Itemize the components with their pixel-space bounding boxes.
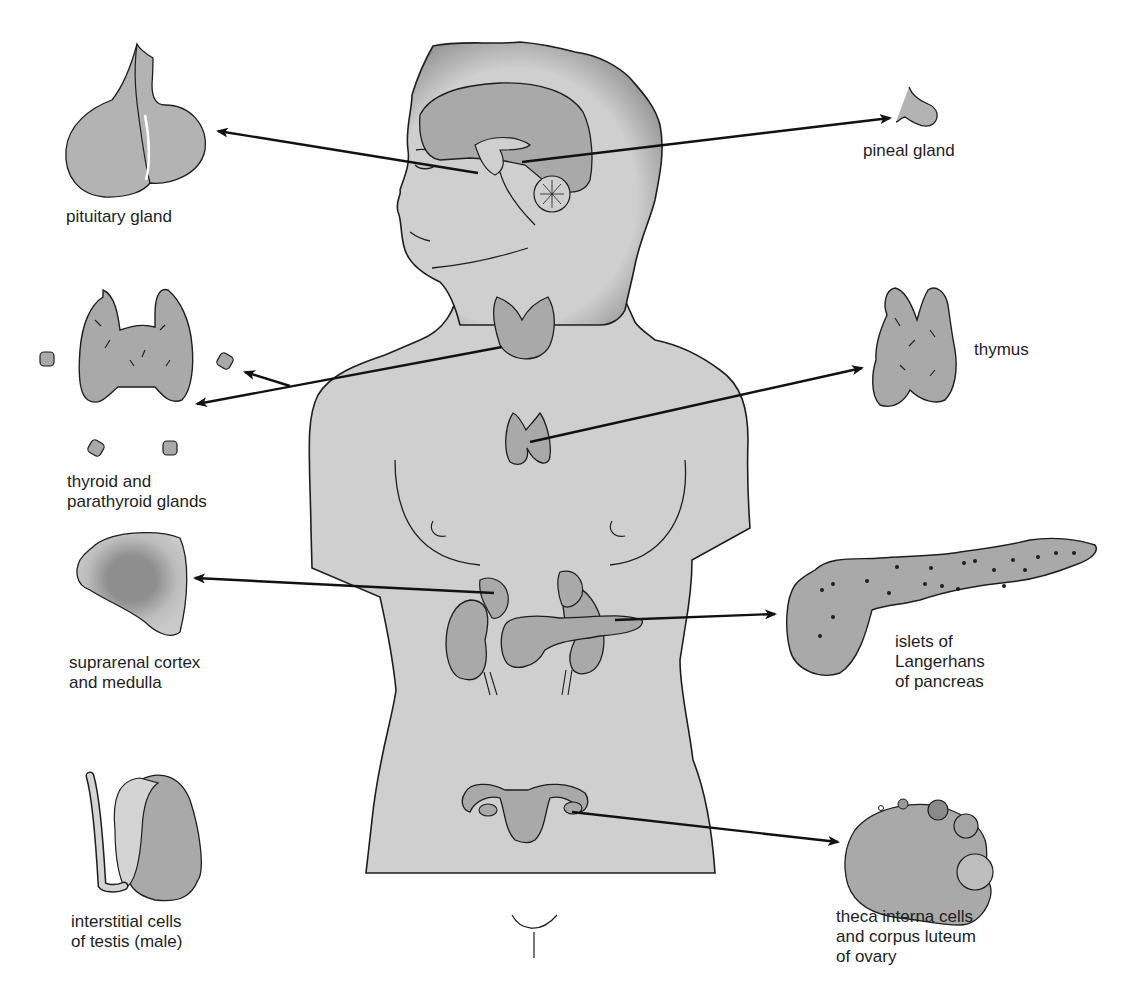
label-pineal-gland: pineal gland	[863, 141, 955, 161]
thyroid-gland-illustration	[40, 290, 235, 458]
label-line: of testis (male)	[71, 932, 182, 952]
label-line: of ovary	[836, 947, 976, 967]
label-suprarenal: suprarenal cortex and medulla	[69, 653, 200, 693]
label-line: pituitary gland	[66, 207, 172, 227]
label-ovary: theca interna cells and corpus luteum of…	[836, 907, 976, 967]
pineal-gland-illustration	[896, 87, 937, 126]
label-thymus: thymus	[974, 340, 1029, 360]
parathyroid-1	[40, 352, 54, 366]
thymus-illustration	[873, 288, 956, 406]
label-line: Langerhans	[895, 652, 985, 672]
human-body-figure	[309, 42, 750, 958]
arrow-parathyroid	[245, 372, 290, 386]
label-testis: interstitial cells of testis (male)	[71, 912, 182, 952]
parathyroid-3	[86, 438, 105, 457]
label-line: parathyroid glands	[67, 492, 207, 512]
label-line: and corpus luteum	[836, 927, 976, 947]
label-line: and medulla	[69, 673, 200, 693]
label-pancreas: islets of Langerhans of pancreas	[895, 632, 985, 692]
testis-illustration	[90, 775, 201, 900]
label-line: islets of	[895, 632, 985, 652]
label-line: thyroid and	[67, 472, 207, 492]
label-line: pineal gland	[863, 141, 955, 161]
label-line: thymus	[974, 340, 1029, 360]
torso-outline	[309, 285, 750, 873]
label-line: theca interna cells	[836, 907, 976, 927]
parathyroid-4	[163, 441, 177, 455]
suprarenal-illustration	[77, 533, 187, 636]
label-line: interstitial cells	[71, 912, 182, 932]
label-line: suprarenal cortex	[69, 653, 200, 673]
label-line: of pancreas	[895, 672, 985, 692]
label-pituitary-gland: pituitary gland	[66, 207, 172, 227]
label-thyroid-parathyroid: thyroid and parathyroid glands	[67, 472, 207, 512]
pituitary-gland-illustration	[66, 44, 206, 197]
ovary-left-in-body	[479, 804, 497, 816]
pubic-line	[512, 915, 557, 958]
parathyroid-2	[215, 351, 234, 370]
